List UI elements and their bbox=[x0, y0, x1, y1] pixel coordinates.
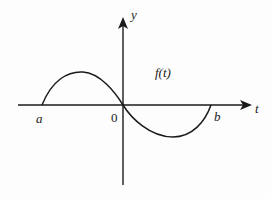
y-axis-label: y bbox=[131, 8, 137, 21]
point-a-label: a bbox=[36, 112, 43, 125]
point-b-label: b bbox=[214, 110, 221, 123]
curve-label: f(t) bbox=[155, 66, 171, 79]
diagram-graphic bbox=[0, 0, 271, 199]
t-axis-label: t bbox=[255, 102, 259, 115]
origin-label: 0 bbox=[111, 111, 118, 124]
function-diagram: y f(t) a 0 b t bbox=[0, 0, 271, 199]
